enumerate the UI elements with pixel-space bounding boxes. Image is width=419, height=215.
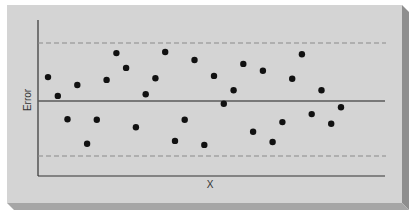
data-point — [94, 117, 100, 123]
data-point — [182, 117, 188, 123]
data-point — [338, 104, 344, 110]
data-point — [152, 75, 158, 81]
panel-bottom-edge — [7, 203, 409, 210]
data-point — [279, 119, 285, 125]
data-point — [221, 101, 227, 107]
data-point — [240, 61, 246, 67]
data-point — [289, 76, 295, 82]
data-point — [269, 139, 275, 145]
data-point — [64, 116, 70, 122]
data-point — [133, 124, 139, 130]
data-point — [172, 138, 178, 144]
panel-right-edge — [402, 5, 409, 210]
data-point — [328, 121, 334, 127]
data-point — [74, 82, 80, 88]
y-axis-label: Error — [22, 88, 33, 111]
panel-face — [7, 5, 402, 203]
data-point — [84, 141, 90, 147]
data-point — [299, 51, 305, 57]
data-point — [230, 87, 236, 93]
data-point — [103, 77, 109, 83]
data-point — [45, 74, 51, 80]
data-point — [55, 93, 61, 99]
data-point — [162, 49, 168, 55]
data-point — [143, 91, 149, 97]
chart-panel: X Error — [0, 0, 419, 215]
data-point — [260, 68, 266, 74]
data-point — [191, 57, 197, 63]
data-point — [318, 87, 324, 93]
data-point — [309, 111, 315, 117]
data-point — [123, 65, 129, 71]
data-point — [113, 50, 119, 56]
data-point — [250, 129, 256, 135]
residual-scatter-plot: X Error — [0, 0, 419, 215]
data-point — [201, 142, 207, 148]
data-point — [211, 73, 217, 79]
x-axis-label: X — [207, 179, 214, 190]
